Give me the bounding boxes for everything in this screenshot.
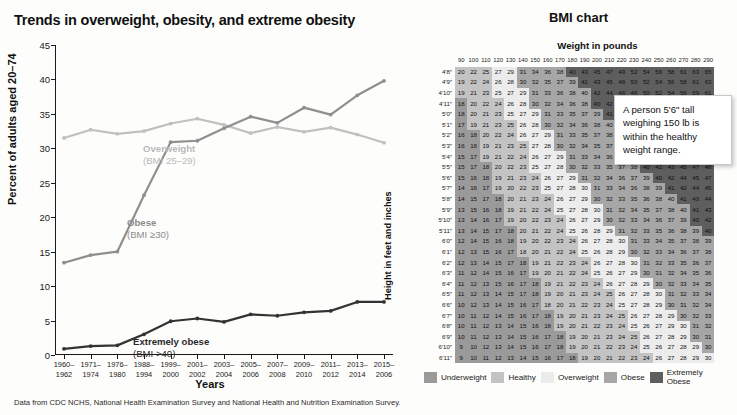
bmi-cell: 12 [467,289,479,300]
bmi-cell: 35 [677,257,689,268]
bmi-cell: 27 [640,310,652,321]
bmi-cell: 20 [504,183,516,194]
bmi-cell: 29 [566,173,578,184]
line-series [64,119,384,143]
series-label-obese: Obese (BMI ≥30) [127,217,169,240]
y-axis-tick-label: 30 [39,143,50,154]
bmi-cell: 33 [702,310,714,321]
bmi-cell: 17 [517,278,529,289]
x-axis-tick [331,355,332,359]
weight-column-header: 270 [677,56,689,67]
bmi-cell: 34 [640,215,652,226]
height-row-header: 5′4″ [428,151,455,162]
bmi-cell: 12 [455,236,467,247]
bmi-cell: 13 [480,278,492,289]
bmi-cell: 23 [529,194,541,205]
bmi-cell: 32 [665,278,677,289]
bmi-cell: 13 [492,342,504,353]
bmi-cell: 47 [702,173,714,184]
bmi-cell: 27 [591,236,603,247]
bmi-cell: 16 [504,268,516,279]
bmi-cell: 21 [504,173,516,184]
bmi-cell: 33 [554,109,566,120]
bmi-cell: 35 [640,204,652,215]
bmi-cell: 36 [615,173,627,184]
bmi-cell: 38 [640,183,652,194]
bmi-cell: 38 [554,67,566,78]
bmi-cell: 29 [677,331,689,342]
bmi-cell: 23 [603,321,615,332]
bmi-cell: 21 [554,278,566,289]
bmi-cell: 18 [554,331,566,342]
bmi-cell: 32 [615,215,627,226]
weight-column-header: 140 [517,56,529,67]
height-row-header: 6′6″ [428,300,455,311]
data-point [355,300,359,304]
bmi-cell: 16 [455,141,467,152]
bmi-cell: 33 [640,236,652,247]
bmi-cell: 37 [690,247,702,258]
bmi-cell: 21 [541,257,553,268]
bmi-cell: 34 [677,268,689,279]
bmi-cell: 23 [480,88,492,99]
bmi-cell: 38 [591,120,603,131]
data-point [195,139,199,143]
bmi-cell: 31 [640,257,652,268]
bmi-cell: 14 [517,353,529,364]
bmi-cell: 18 [467,130,479,141]
bmi-cell: 32 [665,268,677,279]
bmi-cell: 30 [578,183,590,194]
bmi-cell: 20 [467,98,479,109]
bmi-cell: 12 [492,353,504,364]
bmi-cell: 15 [517,342,529,353]
bmi-cell: 19 [455,77,467,88]
weight-column-header: 250 [653,56,665,67]
bmi-cell: 18 [541,300,553,311]
bmi-cell: 28 [677,353,689,364]
bmi-cell: 13 [492,331,504,342]
bmi-cell: 21 [492,141,504,152]
bmi-cell: 12 [467,268,479,279]
bmi-cell: 22 [578,300,590,311]
bmi-cell: 23 [628,353,640,364]
bmi-cell: 21 [467,88,479,99]
bmi-cell: 19 [566,342,578,353]
bmi-cell: 36 [653,215,665,226]
bmi-cell: 18 [455,109,467,120]
bmi-cell: 15 [455,151,467,162]
y-axis-tick [51,252,55,253]
bmi-cell: 34 [578,141,590,152]
x-axis-tick-label: 2001–2002 [187,360,208,379]
series-label-extreme-sub: (BMI >40) [133,348,209,360]
bmi-cell: 16 [492,236,504,247]
bmi-cell: 13 [467,257,479,268]
bmi-cell: 38 [566,88,578,99]
trends-chart-panel: Trends in overweight, obesity, and extre… [0,0,420,415]
bmi-cell: 11 [455,268,467,279]
bmi-cell: 35 [702,278,714,289]
bmi-cell: 29 [529,109,541,120]
bmi-cell: 24 [591,289,603,300]
bmi-cell: 37 [578,109,590,120]
bmi-cell: 30 [665,300,677,311]
bmi-cell: 27 [653,321,665,332]
bmi-cell: 33 [591,162,603,173]
y-axis-tick [51,79,55,80]
bmi-cell: 43 [591,77,603,88]
bmi-cell: 27 [554,183,566,194]
height-row-header: 5′11″ [428,226,455,237]
data-point [89,253,93,257]
bmi-cell: 32 [653,257,665,268]
y-axis-tick-label: 5 [45,315,50,326]
weight-column-header: 200 [591,56,603,67]
bmi-cell: 18 [492,194,504,205]
bmi-cell: 45 [603,77,615,88]
bmi-cell: 16 [504,278,516,289]
bmi-table-head: 9010011012013014015016017018019020021022… [428,56,714,67]
bmi-cell: 29 [690,353,702,364]
bmi-cell: 63 [690,67,702,78]
bmi-cell: 25 [541,183,553,194]
bmi-cell: 17 [517,289,529,300]
bmi-cell: 19 [566,331,578,342]
bmi-cell: 27 [615,268,627,279]
